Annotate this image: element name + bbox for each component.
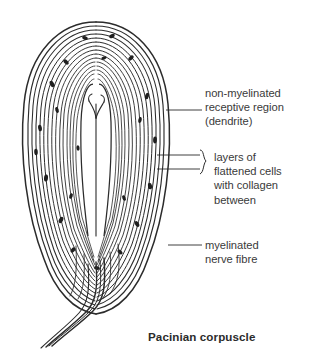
layers-curly-brace	[200, 150, 206, 174]
label-myelinated-nerve-fibre: myelinated nerve fibre	[205, 238, 259, 266]
figure-title: Pacinian corpuscle	[148, 330, 255, 343]
label-non-myelinated-receptive-region: non-myelinated receptive region (dendrit…	[205, 86, 284, 129]
label-layers-of-flattened-cells: layers of flattened cells with collagen …	[214, 150, 282, 207]
